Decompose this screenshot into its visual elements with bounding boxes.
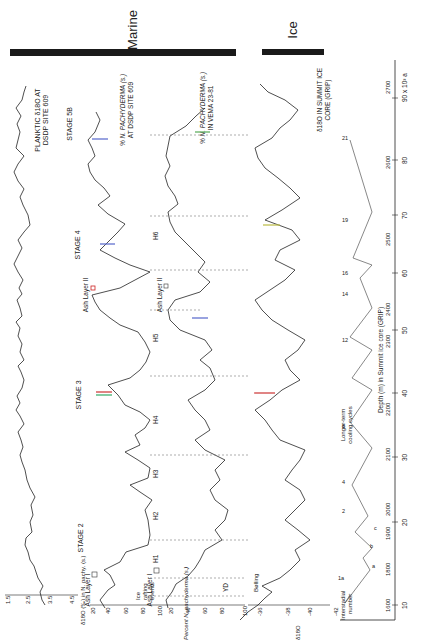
yd-label: YD xyxy=(222,583,229,592)
svg-text:3.5: 3.5 xyxy=(47,595,53,604)
svg-text:2500: 2500 xyxy=(385,232,391,246)
svg-text:60: 60 xyxy=(202,607,208,614)
svg-text:30: 30 xyxy=(401,453,408,461)
stage-2-label: STAGE 2 xyxy=(77,523,84,552)
colored-highlights xyxy=(92,132,280,395)
svg-text:20: 20 xyxy=(401,518,408,526)
svg-text:2700: 2700 xyxy=(385,80,391,94)
svg-text:80: 80 xyxy=(219,607,225,614)
svg-text:-36: -36 xyxy=(257,607,263,616)
ash-1b-marker-icon xyxy=(154,568,159,573)
svg-text:2600: 2600 xyxy=(385,155,391,169)
is-21: 21 xyxy=(342,135,348,141)
svg-text:2100: 2100 xyxy=(385,447,391,461)
svg-text:-42: -42 xyxy=(333,607,339,616)
svg-text:60: 60 xyxy=(401,269,408,277)
is-19: 19 xyxy=(342,217,348,223)
p1-curve xyxy=(14,86,45,605)
svg-text:-38: -38 xyxy=(285,607,291,616)
depth-tick-labels: 1600 1800 1900 2000 2100 2200 2300 2400 … xyxy=(385,80,391,612)
is-c: c xyxy=(374,525,377,531)
ash-1-marker-icon xyxy=(92,572,97,577)
p3-title-2: IN VEMA 23-81 xyxy=(207,85,214,130)
svg-text:2400: 2400 xyxy=(385,302,391,316)
is-a: a xyxy=(372,563,376,569)
is-b: b xyxy=(370,543,373,549)
correlation-lines xyxy=(150,135,250,596)
svg-text:1900: 1900 xyxy=(385,526,391,540)
h4-label: H4 xyxy=(152,415,159,424)
p3-ticks: 20 40 60 80 100 xyxy=(168,605,248,616)
svg-text:80: 80 xyxy=(401,156,408,164)
p3-curve xyxy=(165,108,228,608)
svg-text:2.5: 2.5 xyxy=(25,595,31,604)
ash-layer-2-top: Ash Layer II xyxy=(82,277,90,312)
svg-text:20: 20 xyxy=(90,607,96,614)
bolling-label: Bølling xyxy=(253,574,259,592)
h3-label: H3 xyxy=(152,469,159,478)
svg-text:100: 100 xyxy=(242,605,248,616)
stage-4-label: STAGE 4 xyxy=(74,230,81,259)
svg-text:40: 40 xyxy=(105,607,111,614)
h2-label: H2 xyxy=(152,511,159,520)
svg-text:-40: -40 xyxy=(307,607,313,616)
is-4: 4 xyxy=(342,479,345,485)
ash-layer-2-bottom: Ash Layer II xyxy=(156,277,164,312)
depth-axis-label: Depth (m) in Summit ice core (GRIP) xyxy=(377,307,385,413)
interstadial-label-2: number xyxy=(347,594,353,614)
p1-ylabel: δ18O (‰) in N. pachy. (s.) xyxy=(80,555,86,625)
svg-text:2300: 2300 xyxy=(385,334,391,348)
ice-group-bar xyxy=(262,49,324,55)
h5-label: H5 xyxy=(152,333,159,342)
p4-ylabel: δ18O xyxy=(295,625,301,640)
svg-text:70: 70 xyxy=(401,211,408,219)
p1-ticks: 1.5 2.5 3.5 4.5 xyxy=(5,595,75,604)
svg-text:4.5: 4.5 xyxy=(69,595,75,604)
p1-title-2: DSDP SITE 609 xyxy=(42,95,49,146)
p4-title-1: δ18O IN SUMMIT ICE xyxy=(316,67,323,132)
age-tick-labels: 10 20 30 40 50 60 70 80 90 x 10³ a xyxy=(401,73,408,609)
ice-rafting-3: events xyxy=(149,582,155,600)
interstadial-label-1: Interstadial xyxy=(340,591,346,620)
ash-2b-marker-icon xyxy=(164,284,168,288)
is-16: 16 xyxy=(342,270,348,276)
ice-rafting-2: rafting xyxy=(142,583,148,600)
is-12: 12 xyxy=(342,337,348,343)
svg-text:1.5: 1.5 xyxy=(5,595,11,604)
svg-text:60: 60 xyxy=(123,607,129,614)
p2-title-1: % N. PACHYDERMA (s.) xyxy=(119,74,127,146)
marine-group-bar xyxy=(10,49,236,56)
ice-label: Ice xyxy=(285,21,300,38)
ice-rafting-1: Ice xyxy=(135,591,141,600)
svg-text:10: 10 xyxy=(401,601,408,609)
svg-text:20: 20 xyxy=(168,607,174,614)
svg-text:1800: 1800 xyxy=(385,562,391,576)
svg-text:40: 40 xyxy=(401,389,408,397)
svg-text:50: 50 xyxy=(401,326,408,334)
h1-label: H1 xyxy=(152,554,159,563)
p4-curve xyxy=(240,84,310,620)
svg-text:90 x 10³ a: 90 x 10³ a xyxy=(401,73,408,102)
h6-label: H6 xyxy=(152,231,159,240)
is-8: 8 xyxy=(342,423,345,429)
stage-5b-label: STAGE 5B xyxy=(66,107,73,141)
p2-title-2: AT DSDP SITE 609 xyxy=(127,81,134,138)
is-14: 14 xyxy=(342,291,348,297)
svg-text:100: 100 xyxy=(157,605,163,616)
p2-ylabel: Percent N. pachyderma (s.) xyxy=(183,567,189,640)
paleoclimate-figure: Marine Ice PLANKTIC δ18O AT DSDP SITE 60… xyxy=(0,0,426,641)
is-1a: 1a xyxy=(338,575,345,581)
p1-title-1: PLANKTIC δ18O AT xyxy=(34,88,41,152)
p4-title-2: CORE (GRIP) xyxy=(324,80,332,121)
marine-label: Marine xyxy=(125,10,140,50)
p4-ticks: -36 -38 -40 -42 xyxy=(257,607,339,616)
svg-text:2000: 2000 xyxy=(385,502,391,516)
svg-text:1600: 1600 xyxy=(385,598,391,612)
is-2: 2 xyxy=(342,508,345,514)
cooling-cycles-line xyxy=(345,140,372,603)
stage-3-label: STAGE 3 xyxy=(75,380,82,409)
ash-2-marker-icon xyxy=(91,286,95,290)
p3-title-1: % N. PACHYDERMA (s.) xyxy=(199,72,207,144)
p2-curve xyxy=(88,112,152,608)
svg-text:80: 80 xyxy=(140,607,146,614)
